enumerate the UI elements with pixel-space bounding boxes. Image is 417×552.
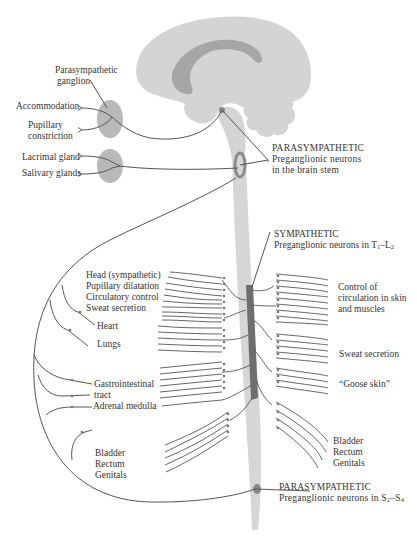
label-pelvic-right: Bladder Rectum Genitals — [333, 436, 365, 469]
label-heading: PARASYMPATHETIC — [279, 482, 404, 493]
label-lungs: Lungs — [97, 339, 121, 350]
label-pupillary-constriction: Pupillary constriction — [28, 120, 73, 142]
label-heading: PARASYMPATHETIC — [272, 143, 364, 154]
label-line: circulation in skin — [338, 293, 407, 304]
label-line: Genitals — [95, 470, 127, 481]
label-line: Preganglionic neurons in S2–S4 — [279, 493, 404, 505]
label-line: Rectum — [333, 447, 365, 458]
cerebellum — [243, 92, 295, 137]
label-line: Gastrointestinal — [94, 379, 154, 390]
label-para-ganglion: Parasympathetic ganglion — [55, 65, 118, 87]
label-circulation: Control of circulation in skin and muscl… — [338, 282, 407, 315]
label-line: Control of — [338, 282, 407, 293]
label-text: –L — [380, 240, 391, 250]
label-lacrimal: Lacrimal gland — [22, 152, 80, 163]
label-para-sacral: PARASYMPATHETIC Preganglionic neurons in… — [279, 482, 404, 505]
label-salivary: Salivary glands — [22, 168, 81, 179]
label-line: Rectum — [95, 459, 127, 470]
nerve-lines — [34, 80, 310, 502]
label-accommodation: Accommodation — [16, 101, 79, 112]
label-adrenal: Adrenal medulla — [93, 401, 157, 412]
label-line: in the brain stem — [272, 165, 364, 176]
label-line: Bladder — [95, 448, 127, 459]
label-text: Preganglionic neurons in T — [274, 240, 377, 250]
brain — [136, 17, 311, 160]
label-heart: Heart — [97, 321, 118, 332]
label-text: –S — [390, 493, 400, 503]
spinal-cord — [232, 158, 261, 530]
label-line: Sweat secretion — [86, 303, 161, 314]
label-heading: SYMPATHETIC — [274, 229, 394, 240]
label-line: Genitals — [333, 458, 365, 469]
label-line: Preganglionic neurons — [272, 154, 364, 165]
label-line: Pupillary dilatation — [86, 281, 161, 292]
label-line: Head (sympathetic) — [86, 270, 161, 281]
subscript: 2 — [391, 243, 394, 250]
label-head-sympathetic: Head (sympathetic) Pupillary dilatation … — [86, 270, 161, 314]
subscript: 4 — [401, 496, 404, 503]
label-line: constriction — [28, 131, 73, 142]
label-line: Circulatory control — [86, 292, 161, 303]
label-line: and muscles — [338, 304, 407, 315]
label-sympathetic: SYMPATHETIC Preganglionic neurons in T1–… — [274, 229, 394, 252]
label-line: Bladder — [333, 436, 365, 447]
label-sweat: Sweat secretion — [339, 349, 399, 360]
label-pelvic-left: Bladder Rectum Genitals — [95, 448, 127, 481]
label-line: tract — [94, 390, 154, 401]
label-line: Pupillary — [28, 120, 73, 131]
label-goose-skin: “Goose skin” — [339, 379, 390, 390]
label-line: ganglion — [55, 76, 118, 87]
label-line: Preganglionic neurons in T1–L2 — [274, 240, 394, 252]
label-line: Parasympathetic — [55, 65, 118, 76]
label-para-brainstem: PARASYMPATHETIC Preganglionic neurons in… — [272, 143, 364, 176]
label-gi: Gastrointestinal tract — [94, 379, 154, 401]
label-text: Preganglionic neurons in S — [279, 493, 387, 503]
